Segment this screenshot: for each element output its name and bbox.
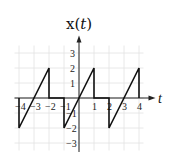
x-axis-arrow-icon [149,96,156,101]
y-tick-label: 2 [70,63,75,74]
x-tick-label: −2 [45,101,56,112]
signal-plot: −4−3−2−11234−3−2−1123 t [0,0,172,160]
x-tick-label: −4 [15,101,26,112]
x-tick-label: 3 [122,101,127,112]
y-tick-label: 1 [70,78,75,89]
y-tick-label: 3 [70,48,75,59]
y-tick-label: −3 [66,138,77,149]
t-axis-label: t [158,91,163,106]
y-axis-arrow-icon [77,36,82,43]
x-tick-label: 4 [137,101,142,112]
x-tick-label: 1 [92,101,97,112]
y-tick-label: −2 [66,123,77,134]
